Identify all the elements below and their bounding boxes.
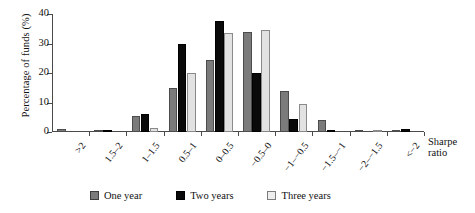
x-axis-title-line1: Sharpe	[428, 136, 474, 147]
x-tick-mark	[350, 132, 351, 136]
bar-two-9	[401, 129, 410, 132]
legend-item-three[interactable]: Three years	[267, 190, 330, 201]
y-tick-label: 20	[39, 66, 50, 77]
bar-two-4	[215, 21, 224, 132]
x-tick-mark	[164, 132, 165, 136]
bar-one-2	[132, 116, 141, 132]
x-tick-mark	[89, 132, 90, 136]
y-axis-line	[52, 14, 53, 132]
legend-label: Two years	[190, 190, 233, 201]
legend-swatch-icon	[267, 191, 276, 200]
legend-item-two[interactable]: Two years	[176, 190, 233, 201]
x-tick-mark	[126, 132, 127, 136]
bar-two-6	[289, 119, 298, 132]
x-tick-mark	[312, 132, 313, 136]
x-tick-mark	[238, 132, 239, 136]
bar-group	[132, 14, 159, 132]
y-tick-label: 0	[44, 125, 49, 136]
bar-three-5	[261, 30, 270, 132]
bar-one-1	[94, 130, 103, 132]
bar-group	[318, 14, 345, 132]
bar-group	[169, 14, 196, 132]
bar-one-9	[392, 130, 401, 132]
x-tick-mark	[275, 132, 276, 136]
x-axis-title: Sharpe ratio	[428, 136, 474, 158]
plot-area: 010203040	[52, 14, 424, 132]
y-tick-label: 10	[39, 96, 50, 107]
bar-group	[392, 14, 419, 132]
bar-two-2	[141, 114, 150, 132]
x-axis-title-line2: ratio	[428, 147, 474, 158]
chart-legend: One yearTwo yearsThree years	[90, 188, 390, 202]
legend-swatch-icon	[176, 191, 185, 200]
y-tick-label: 30	[39, 37, 50, 48]
bar-group	[94, 14, 121, 132]
bar-two-1	[103, 130, 112, 132]
bar-one-0	[57, 129, 66, 132]
bar-one-6	[280, 91, 289, 132]
bar-one-7	[318, 120, 327, 132]
x-tick-mark	[387, 132, 388, 136]
bar-two-3	[178, 44, 187, 133]
legend-label: One year	[104, 190, 142, 201]
bar-three-2	[150, 128, 159, 132]
bar-group	[243, 14, 270, 132]
bar-group	[206, 14, 233, 132]
sharpe-ratio-histogram-figure: Percentage of funds (%) 010203040 >21.5–…	[0, 0, 475, 213]
bar-three-8	[373, 130, 382, 132]
bar-three-3	[187, 73, 196, 132]
bar-group	[57, 14, 84, 132]
bar-one-5	[243, 32, 252, 132]
y-axis-title: Percentage of funds (%)	[20, 0, 31, 136]
bar-group	[355, 14, 382, 132]
bar-one-3	[169, 88, 178, 132]
y-tick-label: 40	[39, 7, 50, 18]
bar-two-7	[327, 130, 336, 132]
legend-item-one[interactable]: One year	[90, 190, 142, 201]
legend-swatch-icon	[90, 191, 99, 200]
bar-two-5	[252, 73, 261, 132]
legend-label: Three years	[281, 190, 330, 201]
bar-three-4	[224, 33, 233, 132]
x-tick-mark	[201, 132, 202, 136]
x-tick-mark	[424, 132, 425, 136]
bar-one-8	[355, 130, 364, 132]
bar-one-4	[206, 60, 215, 132]
bar-three-6	[299, 104, 308, 132]
bar-group	[280, 14, 307, 132]
